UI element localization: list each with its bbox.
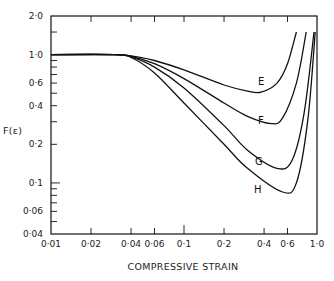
curves: EFGH [51,32,315,195]
y-axis-label: F(ε) [3,125,22,136]
curve-label-e: E [258,76,264,87]
y-tick-label: 0·1 [29,178,43,188]
y-tick-label: 0·04 [23,229,43,239]
x-tick-label: 0·02 [81,239,101,249]
x-tick-label: 0·01 [41,239,61,249]
x-axis-ticks: 0·010·020·040·060·10·20·40·61·0 [41,16,324,249]
x-tick-label: 0·6 [280,239,295,249]
x-tick-label: 0·1 [177,239,191,249]
y-tick-label: 0·4 [29,101,44,111]
curve-label-f: F [258,115,264,126]
x-axis-label: COMPRESSIVE STRAIN [128,261,239,272]
plot-axes [51,16,317,234]
curve-label-h: H [254,184,262,195]
x-tick-label: 0·06 [144,239,164,249]
strain-function-chart: 0·010·020·040·060·10·20·40·61·0 2·01·00·… [0,0,334,281]
y-tick-label: 0·2 [29,139,43,149]
plot-frame [51,16,317,234]
x-tick-label: 0·2 [217,239,231,249]
y-tick-label: 1·0 [29,50,44,60]
x-tick-label: 1·0 [310,239,325,249]
y-tick-label: 0·06 [23,206,43,216]
y-tick-label: 2·0 [29,11,44,21]
x-tick-label: 0·04 [121,239,141,249]
curve-f [51,32,306,124]
curve-h [51,32,315,193]
x-tick-label: 0·4 [257,239,272,249]
y-axis-ticks: 2·01·00·60·40·20·10·060·04 [23,11,60,239]
curve-label-g: G [255,156,263,167]
y-tick-label: 0·6 [29,78,44,88]
